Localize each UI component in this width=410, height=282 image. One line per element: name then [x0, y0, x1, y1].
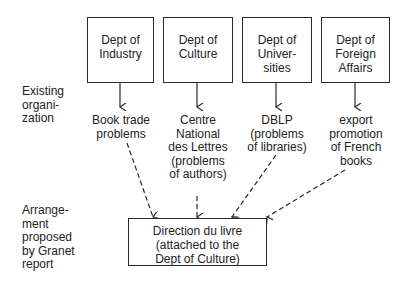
box-line: (attached to the — [156, 238, 239, 252]
dept-universities-box: Dept of Univer- sities — [242, 17, 312, 83]
label-line: DBLP — [238, 114, 316, 128]
proposed-arrangement-label: Arrange- ment proposed by Granet report — [22, 204, 75, 272]
box-line: Dept of Culture) — [155, 252, 240, 266]
label-line: ment — [22, 218, 75, 232]
label-line: promotion — [318, 128, 394, 142]
dept-industry-box: Dept of Industry — [87, 17, 154, 83]
outcome-centre-national: Centre National des Lettres (problems of… — [160, 114, 236, 182]
label-line: organi- — [22, 99, 64, 113]
dept-foreign-affairs-box: Dept of Foreign Affairs — [321, 17, 390, 83]
label-line: of authors) — [160, 168, 236, 182]
label-line: National — [160, 128, 236, 142]
box-line: Foreign — [335, 47, 376, 61]
label-line: zation — [22, 112, 64, 126]
label-line: books — [318, 155, 394, 169]
label-line: proposed — [22, 231, 75, 245]
existing-organization-label: Existing organi- zation — [22, 85, 64, 126]
label-line: of French — [318, 141, 394, 155]
label-line: des Lettres — [160, 141, 236, 155]
box-line: Culture — [179, 47, 218, 61]
box-line: Univer- — [258, 47, 297, 61]
box-line: sities — [263, 61, 290, 75]
dept-culture-box: Dept of Culture — [163, 17, 233, 83]
outcome-export-promotion: export promotion of French books — [318, 114, 394, 168]
label-line: export — [318, 114, 394, 128]
label-line: Centre — [160, 114, 236, 128]
box-line: Dept of — [101, 33, 140, 47]
direction-du-livre-box: Direction du livre (attached to the Dept… — [128, 218, 267, 266]
label-line: by Granet — [22, 245, 75, 259]
label-line: Book trade — [85, 114, 157, 128]
label-line: (problems — [160, 155, 236, 169]
box-line: Dept of — [179, 33, 218, 47]
label-line: Arrange- — [22, 204, 75, 218]
box-line: Direction du livre — [153, 224, 242, 238]
label-line: (problems — [238, 128, 316, 142]
box-line: Affairs — [339, 61, 373, 75]
outcome-book-trade: Book trade problems — [85, 114, 157, 141]
label-line: problems — [85, 128, 157, 142]
box-line: Dept of — [336, 33, 375, 47]
label-line: report — [22, 258, 75, 272]
box-line: Industry — [99, 47, 142, 61]
label-line: of libraries) — [238, 141, 316, 155]
outcome-dblp: DBLP (problems of libraries) — [238, 114, 316, 155]
label-line: Existing — [22, 85, 64, 99]
box-line: Dept of — [258, 33, 297, 47]
